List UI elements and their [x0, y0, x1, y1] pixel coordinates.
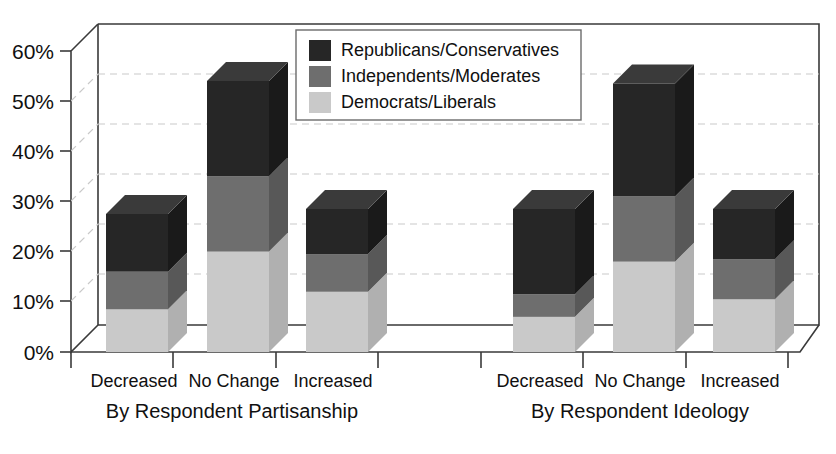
- chart-canvas: 60% 50% 40% 30% 20% 10% 0% Decreased No …: [0, 0, 836, 454]
- stacked-bar-chart: 60% 50% 40% 30% 20% 10% 0% Decreased No …: [0, 0, 836, 454]
- bar-segment-side-republicans: [675, 64, 694, 196]
- legend-swatch-democrats: [309, 92, 331, 113]
- y-tick-label-40: 40%: [12, 140, 54, 163]
- bar-segment-front-independents: [207, 176, 269, 251]
- y-tick-label-60: 60%: [12, 40, 54, 63]
- bar-segment-front-democrats: [207, 252, 269, 352]
- bar-segment-side-republicans: [269, 62, 288, 176]
- group-label-ideology: By Respondent Ideology: [531, 400, 749, 422]
- legend-label-independents: Independents/Moderates: [341, 66, 540, 86]
- bar-by-respondent-ideology-increased: [713, 190, 794, 352]
- legend: Republicans/Conservatives Independents/M…: [296, 30, 581, 120]
- cat-label-i-nochange: No Change: [594, 371, 685, 391]
- bar-segment-front-republicans: [306, 209, 368, 254]
- bar-segment-front-republicans: [513, 209, 575, 294]
- bar-by-respondent-partisanship-no-change: [207, 62, 288, 352]
- cat-label-p-decreased: Decreased: [90, 371, 177, 391]
- y-tick-label-0: 0%: [24, 341, 54, 364]
- cat-label-i-decreased: Decreased: [496, 371, 583, 391]
- cat-label-i-increased: Increased: [700, 371, 779, 391]
- x-axis-ticks: [71, 352, 788, 368]
- bar-segment-front-independents: [713, 259, 775, 299]
- legend-swatch-independents: [309, 66, 331, 87]
- bar-by-respondent-ideology-decreased: [513, 190, 594, 352]
- bar-segment-front-independents: [306, 254, 368, 292]
- bar-segment-front-democrats: [713, 299, 775, 352]
- bar-segment-side-democrats: [675, 243, 694, 352]
- bar-by-respondent-partisanship-increased: [306, 190, 387, 352]
- x-category-labels: Decreased No Change Increased Decreased …: [90, 371, 779, 391]
- bar-segment-front-republicans: [106, 214, 168, 272]
- bar-segment-front-republicans: [613, 83, 675, 196]
- bar-segment-front-independents: [613, 196, 675, 261]
- bar-segment-front-republicans: [207, 81, 269, 176]
- cat-label-p-nochange: No Change: [188, 371, 279, 391]
- bar-segment-front-democrats: [306, 292, 368, 352]
- bar-segment-front-independents: [106, 272, 168, 310]
- cat-label-p-increased: Increased: [293, 371, 372, 391]
- y-tick-label-50: 50%: [12, 90, 54, 113]
- y-axis: 60% 50% 40% 30% 20% 10% 0%: [12, 40, 71, 364]
- group-labels: By Respondent Partisanship By Respondent…: [106, 400, 749, 422]
- bar-segment-side-democrats: [269, 233, 288, 352]
- bar-by-respondent-ideology-no-change: [613, 64, 694, 352]
- bar-segment-front-republicans: [713, 209, 775, 259]
- legend-label-democrats: Democrats/Liberals: [341, 92, 496, 112]
- bar-segment-front-democrats: [613, 262, 675, 352]
- bar-segment-front-democrats: [106, 309, 168, 352]
- bar-by-respondent-partisanship-decreased: [106, 195, 187, 352]
- bar-segment-front-democrats: [513, 317, 575, 352]
- y-tick-label-30: 30%: [12, 190, 54, 213]
- bar-segment-front-independents: [513, 294, 575, 317]
- legend-label-republicans: Republicans/Conservatives: [341, 40, 559, 60]
- group-label-partisanship: By Respondent Partisanship: [106, 400, 358, 422]
- legend-swatch-republicans: [309, 40, 331, 61]
- y-tick-label-20: 20%: [12, 240, 54, 263]
- y-tick-label-10: 10%: [12, 290, 54, 313]
